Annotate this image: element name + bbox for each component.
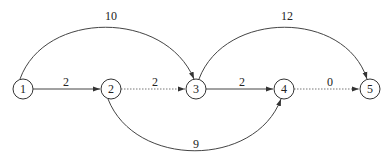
edge-label-3-5: 12 xyxy=(281,9,293,23)
node-label-4: 4 xyxy=(281,82,287,96)
node-label-3: 3 xyxy=(193,82,199,96)
network-diagram: 2 2 2 0 10 12 9 1 2 3 4 5 xyxy=(0,0,389,163)
node-label-2: 2 xyxy=(108,82,114,96)
node-4: 4 xyxy=(274,79,294,99)
edge-label-2-4: 9 xyxy=(193,137,199,151)
node-label-5: 5 xyxy=(367,82,373,96)
edge-label-2-3: 2 xyxy=(152,75,158,89)
node-label-1: 1 xyxy=(20,82,26,96)
edge-label-1-3: 10 xyxy=(105,9,117,23)
edge-label-4-5: 0 xyxy=(327,75,333,89)
edge-3-5: 12 xyxy=(199,9,367,79)
edge-2-4: 9 xyxy=(108,99,281,151)
edge-4-5: 0 xyxy=(294,75,359,89)
node-2: 2 xyxy=(101,79,121,99)
edge-1-3: 10 xyxy=(20,9,194,79)
node-5: 5 xyxy=(360,79,380,99)
edge-1-2: 2 xyxy=(33,75,100,89)
edge-2-3: 2 xyxy=(121,75,185,89)
node-1: 1 xyxy=(13,79,33,99)
edge-label-1-2: 2 xyxy=(63,75,69,89)
edge-3-4: 2 xyxy=(206,75,273,89)
edge-label-3-4: 2 xyxy=(239,75,245,89)
node-3: 3 xyxy=(186,79,206,99)
